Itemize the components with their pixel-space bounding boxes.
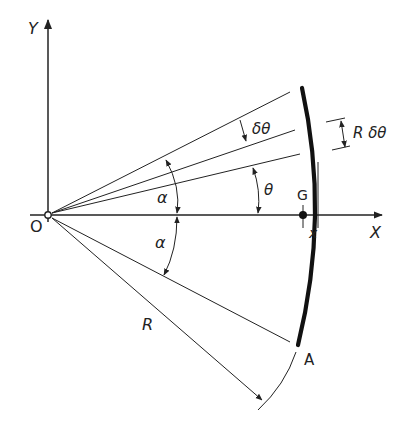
r-dtheta-dimension — [326, 118, 350, 150]
x-axis-label: X — [369, 223, 382, 242]
arc-extension — [258, 352, 296, 410]
arc-element-label: R δθ — [353, 124, 387, 142]
delta-theta-label: δθ — [252, 120, 270, 138]
alpha-lower-arrow — [164, 217, 177, 275]
theta-label: θ — [264, 181, 273, 199]
y-axis-label: Y — [28, 19, 39, 38]
arc-centroid-diagram: Y X O G x A R α α θ δθ R δθ — [0, 0, 405, 428]
alpha-upper-arrow — [166, 160, 178, 213]
radial-lines — [52, 92, 300, 400]
theta-arrow — [253, 168, 259, 213]
alpha-lower-label: α — [155, 233, 166, 252]
origin-point — [45, 212, 51, 218]
centroid-label: G — [297, 187, 308, 203]
upper-alpha-line — [52, 92, 290, 213]
origin-label: O — [30, 217, 43, 236]
radius-label: R — [142, 315, 153, 334]
delta-theta-arrow — [240, 120, 246, 141]
lower-alpha-line — [52, 218, 290, 342]
endpoint-label: A — [304, 351, 315, 369]
alpha-upper-label: α — [157, 188, 168, 207]
x-distance-label: x — [308, 225, 318, 241]
centroid-point — [299, 211, 307, 219]
